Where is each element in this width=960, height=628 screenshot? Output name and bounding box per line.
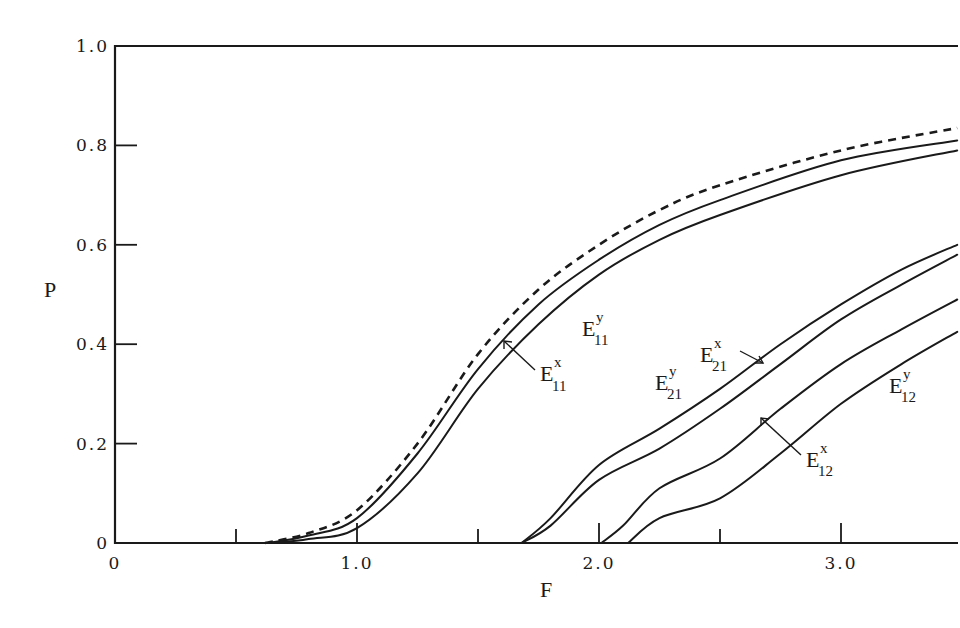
curve-e12-x <box>601 300 957 544</box>
chart-figure: 01.02.03.000.20.40.60.81.0 F P E y 11 E … <box>0 0 960 628</box>
svg-text:x: x <box>820 440 828 456</box>
svg-text:x: x <box>554 354 562 370</box>
label-E11x: E x 11 <box>540 354 566 394</box>
label-E11y: E y 11 <box>582 309 608 348</box>
curve-e21-x <box>522 255 958 543</box>
x-tick-label: 0 <box>109 553 122 573</box>
y-tick-label: 0.8 <box>76 135 109 155</box>
axis-ticks <box>115 145 841 543</box>
y-tick-label: 0.6 <box>76 235 109 255</box>
svg-text:12: 12 <box>901 389 916 405</box>
svg-text:y: y <box>596 309 604 325</box>
y-tick-label: 1.0 <box>76 36 109 56</box>
curve-e11-y <box>272 150 957 543</box>
svg-text:y: y <box>669 363 677 379</box>
label-E21x: E x 21 <box>700 335 727 374</box>
y-tick-label: 0.2 <box>76 434 109 454</box>
x-axis-title: F <box>540 577 552 602</box>
label-E21y: E y 21 <box>655 363 682 402</box>
y-tick-label: 0 <box>96 533 109 553</box>
svg-text:21: 21 <box>712 358 727 374</box>
svg-text:12: 12 <box>818 463 833 479</box>
axis-tick-labels: 01.02.03.000.20.40.60.81.0 <box>76 36 858 573</box>
y-tick-label: 0.4 <box>76 334 109 354</box>
arrow-E12x <box>761 418 801 455</box>
x-tick-label: 1.0 <box>340 553 373 573</box>
x-tick-label: 2.0 <box>582 553 615 573</box>
curve-e11-x <box>267 140 957 543</box>
label-E12x: E x 12 <box>806 440 833 479</box>
curves <box>265 128 957 543</box>
x-tick-label: 3.0 <box>824 553 857 573</box>
svg-text:11: 11 <box>594 332 608 348</box>
svg-text:21: 21 <box>667 386 682 402</box>
y-axis-title: P <box>44 277 56 302</box>
arrow-line <box>761 418 801 455</box>
curve-dashed-unlabeled <box>265 128 957 543</box>
arrow-E21x <box>740 351 763 363</box>
svg-text:11: 11 <box>552 378 566 394</box>
label-E12y: E y 12 <box>889 366 916 405</box>
svg-text:x: x <box>714 335 722 351</box>
svg-text:y: y <box>903 366 911 382</box>
